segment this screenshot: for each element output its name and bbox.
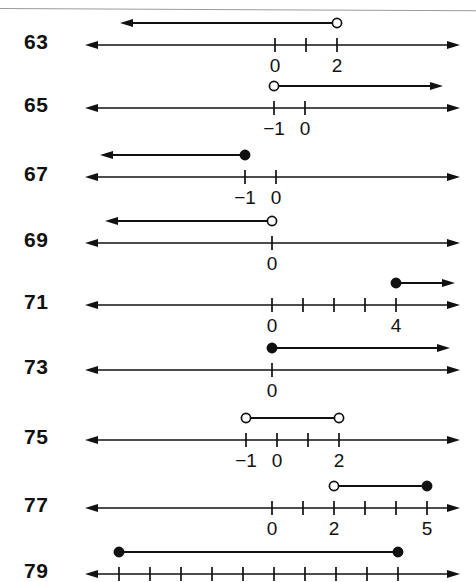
number-line-graphic: 0	[0, 203, 476, 273]
number-line-row: 75−102	[0, 400, 476, 470]
axis-arrow-right	[447, 570, 460, 578]
solution-endpoint-closed-circle	[391, 278, 400, 287]
axis-arrow-left	[85, 104, 98, 112]
axis-arrow-right	[447, 41, 460, 49]
axis-arrow-left	[85, 570, 98, 578]
solution-left-endpoint-open-circle	[241, 413, 250, 422]
number-line-row: 67−10	[0, 137, 476, 207]
number-line-graphic	[0, 534, 476, 582]
solution-ray-arrow-right	[437, 344, 450, 352]
number-line-graphic: 025	[0, 468, 476, 538]
solution-right-endpoint-closed-circle	[393, 547, 402, 556]
tick-label: −1	[235, 450, 257, 470]
axis-arrow-left	[85, 366, 98, 374]
solution-left-endpoint-open-circle	[329, 481, 338, 490]
solution-ray-arrow-left	[120, 19, 133, 27]
number-line-row: 6302	[0, 5, 476, 75]
solution-endpoint-open-circle	[267, 216, 276, 225]
axis-arrow-right	[447, 366, 460, 374]
solution-endpoint-open-circle	[269, 81, 278, 90]
worksheet-page: 630265−1067−10690710473075−1027702579	[0, 0, 476, 582]
number-line-row: 77025	[0, 468, 476, 538]
number-line-row: 730	[0, 330, 476, 400]
axis-arrow-left	[85, 436, 98, 444]
axis-arrow-left	[85, 239, 98, 247]
solution-endpoint-closed-circle	[240, 150, 249, 159]
solution-ray-arrow-left	[100, 151, 113, 159]
number-line-graphic: 0	[0, 330, 476, 400]
solution-ray-arrow-right	[442, 279, 455, 287]
number-line-graphic: 04	[0, 265, 476, 335]
number-line-graphic: −10	[0, 137, 476, 207]
solution-ray-arrow-right	[430, 82, 443, 90]
solution-left-endpoint-closed-circle	[114, 547, 123, 556]
number-line-graphic: 02	[0, 5, 476, 75]
solution-right-endpoint-closed-circle	[422, 481, 431, 490]
axis-arrow-right	[447, 436, 460, 444]
axis-arrow-left	[85, 301, 98, 309]
number-line-row: 7104	[0, 265, 476, 335]
tick-label: 2	[334, 450, 345, 470]
solution-ray-arrow-left	[105, 217, 118, 225]
number-line-graphic: −102	[0, 400, 476, 470]
tick-label: −1	[263, 118, 285, 138]
axis-arrow-left	[85, 504, 98, 512]
number-line-row: 79	[0, 534, 476, 582]
axis-arrow-right	[447, 301, 460, 309]
solution-endpoint-open-circle	[332, 18, 341, 27]
number-line-row: 690	[0, 203, 476, 273]
axis-arrow-right	[447, 239, 460, 247]
axis-arrow-left	[85, 173, 98, 181]
solution-endpoint-closed-circle	[267, 343, 276, 352]
axis-arrow-right	[447, 504, 460, 512]
tick-label: 0	[300, 118, 311, 138]
number-line-row: 65−10	[0, 68, 476, 138]
axis-arrow-right	[447, 104, 460, 112]
axis-arrow-left	[85, 41, 98, 49]
tick-label: 0	[272, 450, 283, 470]
number-line-graphic: −10	[0, 68, 476, 138]
solution-right-endpoint-open-circle	[334, 413, 343, 422]
tick-label: 0	[267, 380, 278, 400]
axis-arrow-right	[447, 173, 460, 181]
